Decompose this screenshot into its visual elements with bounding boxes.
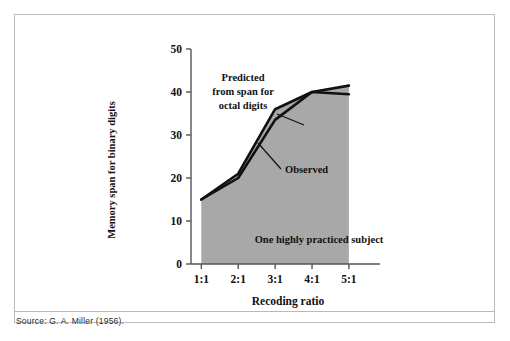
y-tick-label: 50 bbox=[171, 43, 183, 55]
memory-span-chart: 01020304050 1:12:13:14:15:1 Memory span … bbox=[15, 15, 496, 324]
y-tick-label: 40 bbox=[171, 86, 183, 98]
y-tick-label: 10 bbox=[171, 215, 183, 227]
x-tick-label: 5:1 bbox=[341, 273, 357, 285]
y-tick-label: 20 bbox=[171, 172, 183, 184]
annotation-predicted-line1: Predicted bbox=[222, 72, 265, 83]
inline-annotation-subject: One highly practiced subject bbox=[255, 234, 384, 245]
x-tick-label: 1:1 bbox=[194, 273, 210, 285]
annotation-predicted-line2: from span for bbox=[212, 86, 274, 97]
annotation-predicted-line3: octal digits bbox=[219, 100, 268, 111]
annotation-observed-label: Observed bbox=[285, 164, 328, 175]
source-note: Source: G. A. Miller (1956). bbox=[16, 316, 124, 326]
source-divider bbox=[14, 311, 495, 312]
chart-plot-area: 01020304050 1:12:13:14:15:1 Memory span … bbox=[15, 15, 496, 324]
y-tick-label: 0 bbox=[176, 258, 182, 270]
x-axis-ticks bbox=[201, 264, 349, 269]
x-tick-label: 4:1 bbox=[304, 273, 320, 285]
y-tick-label: 30 bbox=[171, 129, 183, 141]
x-tick-label: 2:1 bbox=[231, 273, 247, 285]
x-tick-label: 3:1 bbox=[267, 273, 283, 285]
x-axis-tick-labels: 1:12:13:14:15:1 bbox=[194, 273, 357, 285]
y-axis-title: Memory span for binary digits bbox=[106, 101, 117, 238]
figure-panel: 01020304050 1:12:13:14:15:1 Memory span … bbox=[14, 14, 495, 323]
x-axis-title: Recoding ratio bbox=[252, 295, 325, 308]
y-axis-tick-labels: 01020304050 bbox=[171, 43, 183, 270]
y-axis-ticks bbox=[186, 49, 191, 264]
